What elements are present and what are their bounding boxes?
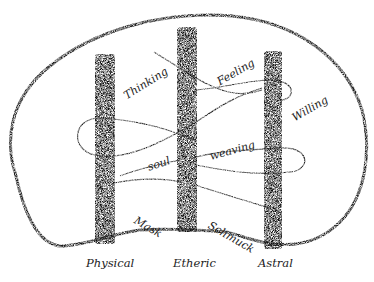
sketch-drawing (0, 0, 374, 282)
label-etheric: Etheric (173, 256, 216, 270)
physical-pillar (95, 54, 115, 244)
label-astral: Astral (258, 256, 293, 270)
etheric-pillar (177, 27, 197, 232)
diagram-canvas: Thinking Feeling Willing soul weaving Ma… (0, 0, 374, 282)
label-physical: Physical (86, 256, 134, 270)
